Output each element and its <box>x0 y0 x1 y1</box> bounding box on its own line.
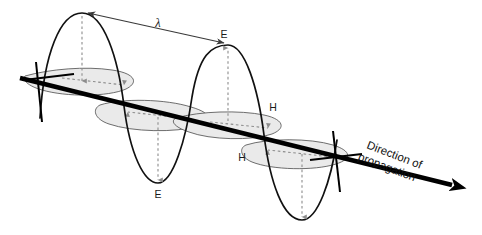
e-field-label-top: E <box>220 28 227 40</box>
e-field-curve-group <box>40 13 337 220</box>
wavelength-label: λ <box>154 16 161 30</box>
h-field-label-upper: H <box>269 101 277 113</box>
e-field-label-bottom: E <box>154 188 161 200</box>
em-wave-canvas: λ E E H H Direction of propagation <box>0 0 482 235</box>
e-field-wave-path <box>40 13 337 220</box>
em-wave-diagram: λ E E H H Direction of propagation <box>0 0 482 235</box>
h-field-label-lower: H <box>238 151 246 163</box>
axis-cross-left-a <box>36 62 42 122</box>
direction-of-propagation-label: Direction of propagation <box>357 137 425 184</box>
